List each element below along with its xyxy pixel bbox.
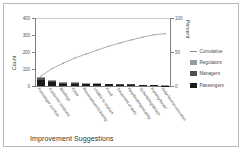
y-tick-label-400: 400: [16, 16, 30, 21]
y2-tick-label-50: 50: [175, 50, 189, 55]
legend-line-swatch: [190, 51, 197, 52]
cumulative-point: [153, 34, 154, 35]
y-tick-label-200: 200: [16, 50, 30, 55]
x-category-label: Crew: [70, 87, 79, 97]
x-category-labels: Passenger comfortCustomer relationsBrief…: [35, 87, 171, 135]
y2-tick-label-0: 0: [175, 84, 189, 89]
pareto-chart: 400 300 200 100 0 100 50 0 Count Percent…: [4, 4, 240, 148]
cumulative-point: [74, 57, 75, 58]
x-axis-title: Improvement Suggestions: [30, 135, 114, 142]
cumulative-point: [142, 36, 143, 37]
cumulative-point: [51, 68, 52, 69]
cumulative-point: [131, 39, 132, 40]
cumulative-line: [35, 18, 171, 86]
x-category-label: Food: [104, 87, 113, 97]
y2-tick-100: [171, 18, 174, 19]
cumulative-path: [41, 34, 166, 77]
legend-label: Cumulative: [200, 49, 223, 54]
legend-label: Passengers: [200, 83, 224, 88]
y2-axis-title: Percent: [185, 16, 191, 42]
cumulative-point: [119, 42, 120, 43]
legend-item[interactable]: Passengers: [190, 82, 242, 88]
chart-legend: CumulativeRegulatorsManagersPassengers: [190, 48, 242, 94]
chart-frame: 400 300 200 100 0 100 50 0 Count Percent…: [3, 3, 239, 147]
cumulative-point: [63, 63, 64, 64]
y-tick-label-300: 300: [16, 33, 30, 38]
y-tick-label-100: 100: [16, 67, 30, 72]
legend-item[interactable]: Cumulative: [190, 48, 242, 54]
legend-color-swatch: [190, 60, 197, 65]
legend-item[interactable]: Regulators: [190, 59, 242, 65]
legend-color-swatch: [190, 83, 197, 88]
cumulative-point: [40, 75, 41, 76]
legend-color-swatch: [190, 71, 197, 76]
legend-label: Regulators: [200, 60, 222, 65]
cumulative-point: [108, 46, 109, 47]
cumulative-point: [85, 53, 86, 54]
cumulative-point: [97, 49, 98, 50]
y2-tick-0: [171, 86, 174, 87]
cumulative-point: [165, 33, 166, 34]
y-tick-label-0: 0: [16, 84, 30, 89]
legend-item[interactable]: Managers: [190, 71, 242, 77]
y2-tick-50: [171, 52, 174, 53]
y-axis-title: Count: [11, 50, 17, 76]
legend-label: Managers: [200, 71, 220, 76]
